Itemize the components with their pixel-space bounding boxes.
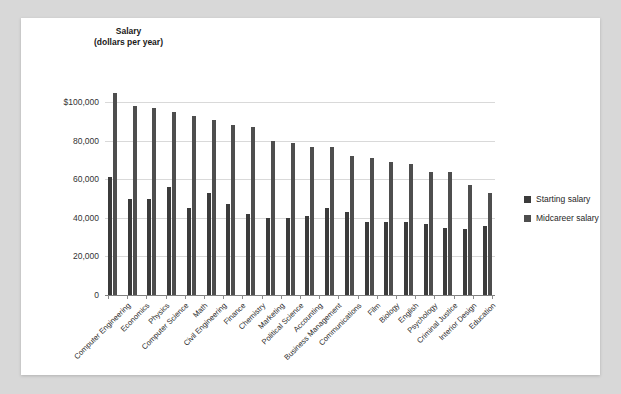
x-axis-tick (127, 295, 128, 299)
x-axis-tick (281, 295, 282, 299)
bar-starting-salary (325, 208, 329, 295)
bar-groups (105, 83, 495, 295)
chart-axis-title: Salary (dollars per year) (61, 26, 196, 48)
bar-group (226, 83, 235, 295)
x-axis-tick (319, 295, 320, 299)
bar-starting-salary (365, 222, 369, 295)
bar-midcareer-salary (350, 156, 354, 295)
plot-area: 020,00040,00060,00080,000$100,000 Comput… (105, 83, 495, 295)
x-axis-tick (358, 295, 359, 299)
bar-midcareer-salary (152, 108, 156, 295)
bar-group (424, 83, 433, 295)
bar-starting-salary (483, 226, 487, 295)
bar-midcareer-salary (231, 125, 235, 295)
axis-title-line-2: (dollars per year) (61, 37, 196, 48)
x-axis-tick (204, 295, 205, 299)
bar-starting-salary (384, 222, 388, 295)
bar-starting-salary (424, 224, 428, 295)
bar-midcareer-salary (468, 185, 472, 295)
bar-group (207, 83, 216, 295)
x-axis-tick (396, 295, 397, 299)
bar-starting-salary (108, 177, 112, 295)
bar-midcareer-salary (310, 147, 314, 295)
bar-starting-salary (207, 193, 211, 295)
bar-group (286, 83, 295, 295)
bar-starting-salary (463, 229, 467, 295)
bar-midcareer-salary (251, 127, 255, 295)
legend-swatch-icon (524, 215, 531, 222)
bar-group (167, 83, 176, 295)
x-axis-tick (262, 295, 263, 299)
bar-midcareer-salary (113, 93, 117, 295)
x-axis-tick (223, 295, 224, 299)
bar-starting-salary (187, 208, 191, 295)
bar-starting-salary (286, 218, 290, 295)
bar-group (463, 83, 472, 295)
x-axis-tick (242, 295, 243, 299)
bar-midcareer-salary (370, 158, 374, 295)
x-axis-tick (300, 295, 301, 299)
y-axis-tick-label: 0 (94, 290, 99, 300)
bar-group (384, 83, 393, 295)
chart-card: Salary (dollars per year) 020,00040,0006… (21, 18, 600, 375)
bar-starting-salary (404, 222, 408, 295)
y-axis-tick-labels: 020,00040,00060,00080,000$100,000 (25, 83, 99, 295)
bar-midcareer-salary (488, 193, 492, 295)
legend-item[interactable]: Midcareer salary (524, 213, 599, 223)
legend-item[interactable]: Starting salary (524, 194, 599, 204)
x-axis-category-label: Biology (377, 301, 401, 325)
bar-group (443, 83, 452, 295)
axis-title-line-1: Salary (61, 26, 196, 37)
bar-midcareer-salary (291, 143, 295, 295)
bar-group (128, 83, 137, 295)
bar-starting-salary (147, 199, 151, 295)
bar-starting-salary (266, 218, 270, 295)
bar-starting-salary (443, 228, 447, 295)
y-axis-tick-label: 80,000 (73, 136, 99, 146)
bar-midcareer-salary (389, 162, 393, 295)
x-axis-tick (454, 295, 455, 299)
x-axis-tick (338, 295, 339, 299)
y-axis-tick-label: 40,000 (73, 213, 99, 223)
bar-starting-salary (246, 214, 250, 295)
x-axis-tick (434, 295, 435, 299)
bar-midcareer-salary (192, 116, 196, 295)
bar-group (365, 83, 374, 295)
bar-midcareer-salary (429, 172, 433, 295)
bar-group (246, 83, 255, 295)
x-axis-tick (185, 295, 186, 299)
bar-midcareer-salary (133, 106, 137, 295)
x-axis-tick (166, 295, 167, 299)
bar-starting-salary (167, 187, 171, 295)
bar-starting-salary (305, 216, 309, 295)
x-axis-tick (415, 295, 416, 299)
bar-starting-salary (345, 212, 349, 295)
bar-starting-salary (128, 199, 132, 295)
x-axis-tick (377, 295, 378, 299)
bar-midcareer-salary (172, 112, 176, 295)
bar-group (187, 83, 196, 295)
chart-legend: Starting salaryMidcareer salary (524, 194, 599, 232)
bar-starting-salary (226, 204, 230, 295)
bar-group (483, 83, 492, 295)
x-axis-tick (492, 295, 493, 299)
y-axis-tick-label: $100,000 (64, 97, 99, 107)
x-axis-tick (146, 295, 147, 299)
x-axis-ticks (105, 295, 495, 299)
legend-label: Starting salary (536, 194, 590, 204)
bar-group (266, 83, 275, 295)
bar-midcareer-salary (448, 172, 452, 295)
bar-midcareer-salary (409, 164, 413, 295)
bar-midcareer-salary (212, 120, 216, 295)
y-axis-tick-label: 20,000 (73, 251, 99, 261)
legend-swatch-icon (524, 196, 531, 203)
legend-label: Midcareer salary (536, 213, 599, 223)
x-axis-tick (108, 295, 109, 299)
x-axis-tick (473, 295, 474, 299)
bar-group (345, 83, 354, 295)
bar-group (305, 83, 314, 295)
bar-group (325, 83, 334, 295)
bar-midcareer-salary (271, 141, 275, 295)
bar-group (404, 83, 413, 295)
y-axis-tick-label: 60,000 (73, 174, 99, 184)
